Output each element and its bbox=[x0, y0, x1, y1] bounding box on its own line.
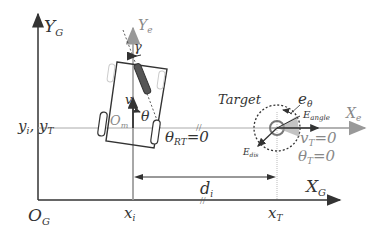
robot-steering-wheel bbox=[133, 63, 151, 95]
target-label: Target bbox=[218, 92, 262, 107]
heading-angle-arc bbox=[133, 111, 140, 112]
robot-y-label: Ye bbox=[138, 17, 153, 35]
target-velocity-label: vT=0 bbox=[300, 129, 337, 148]
x-i-label: xi bbox=[124, 204, 135, 223]
steer-angle-label: γ bbox=[134, 39, 142, 54]
heading-angle-label: θ bbox=[141, 108, 150, 124]
robot-left-wheel bbox=[97, 112, 107, 137]
dist-error-arrow bbox=[258, 128, 277, 146]
dist-error-label: Edis bbox=[242, 147, 258, 158]
y-coordinate-label: yi, yT bbox=[17, 117, 54, 136]
diagram-canvas: // // bbox=[0, 0, 387, 232]
global-origin-label: OG bbox=[28, 205, 50, 227]
target-heading-label: θT=0 bbox=[298, 147, 336, 166]
robot-right-wheel bbox=[150, 120, 160, 145]
x-t-label: xT bbox=[268, 204, 283, 223]
robot-x-label: Xe bbox=[345, 105, 361, 123]
theta-error-label: eθ bbox=[298, 90, 313, 109]
distance-label: di bbox=[200, 179, 213, 199]
relative-angle-label: θRT=0 bbox=[165, 128, 209, 147]
angle-error-label: Eangle bbox=[302, 109, 330, 122]
global-x-label: XG bbox=[304, 176, 326, 198]
global-y-label: YG bbox=[44, 16, 63, 38]
velocity-label: v bbox=[125, 92, 133, 107]
robot-origin-label: Om bbox=[110, 113, 129, 130]
